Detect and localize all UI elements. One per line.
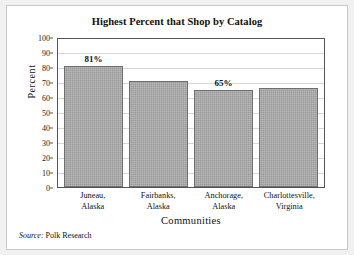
x-axis-tick-label-line2: Alaska (191, 202, 257, 213)
y-axis-tick-mark (50, 113, 53, 114)
x-axis-tick-label-line1: Anchorage, (205, 191, 243, 200)
bar[interactable] (129, 81, 189, 188)
y-axis-tick-label: 10 (42, 169, 50, 178)
chart-title: Highest Percent that Shop by Catalog (7, 16, 347, 27)
bars-container: 81%65% (58, 39, 324, 187)
y-axis-tick-label: 70 (42, 79, 50, 88)
y-axis-tick-label: 30 (42, 139, 50, 148)
y-axis-tick-mark (50, 38, 53, 39)
x-axis-tick-label-line1: Fairbanks, (141, 191, 176, 200)
y-axis-tick-label: 20 (42, 154, 50, 163)
bar[interactable] (64, 66, 124, 188)
y-axis-tick-label: 100 (38, 34, 50, 43)
bar-slot (129, 39, 189, 187)
y-axis-tick-mark (50, 173, 53, 174)
y-axis-tick-mark (50, 128, 53, 129)
x-axis-tick-label: Charlottesville,Virginia (257, 191, 323, 212)
source-note: Source: Polk Research (19, 231, 92, 240)
y-axis-tick-mark (50, 188, 53, 189)
x-axis-tick-labels: Juneau,AlaskaFairbanks,AlaskaAnchorage,A… (57, 191, 325, 212)
bar-value-label: 81% (64, 54, 124, 64)
plot-area: 81%65% (57, 38, 325, 188)
x-axis-tick-label-line2: Alaska (126, 202, 192, 213)
bar-slot: 65% (194, 39, 254, 187)
y-axis-tick-label: 40 (42, 124, 50, 133)
y-axis-tick-mark (50, 83, 53, 84)
source-label: Source: (19, 231, 44, 240)
bar[interactable] (194, 90, 254, 188)
x-axis-tick-label-line2: Alaska (60, 202, 126, 213)
x-axis-tick-label-line1: Juneau, (80, 191, 105, 200)
bar-slot (259, 39, 319, 187)
y-axis-tick-labels: 1009080706050403020100 (23, 38, 53, 188)
source-text: Polk Research (46, 231, 92, 240)
y-axis-tick-label: 60 (42, 94, 50, 103)
x-axis-tick-label: Juneau,Alaska (60, 191, 126, 212)
bar-slot: 81% (64, 39, 124, 187)
y-axis-tick-label: 80 (42, 64, 50, 73)
x-axis-tick-label: Fairbanks,Alaska (126, 191, 192, 212)
x-axis-title: Communities (57, 215, 325, 226)
y-axis-tick-mark (50, 143, 53, 144)
y-axis-tick-mark (50, 53, 53, 54)
y-axis-tick-label: 50 (42, 109, 50, 118)
y-axis-tick-mark (50, 158, 53, 159)
y-axis-tick-mark (50, 98, 53, 99)
x-axis-tick-label-line1: Charlottesville, (264, 191, 315, 200)
y-axis-tick-label: 90 (42, 49, 50, 58)
bar[interactable] (259, 88, 319, 187)
figure-card: Highest Percent that Shop by Catalog Per… (6, 5, 348, 250)
bar-value-label: 65% (194, 78, 254, 88)
x-axis-tick-label: Anchorage,Alaska (191, 191, 257, 212)
figure-frame: Highest Percent that Shop by Catalog Per… (0, 0, 354, 255)
y-axis-tick-mark (50, 68, 53, 69)
x-axis-tick-label-line2: Virginia (257, 202, 323, 213)
